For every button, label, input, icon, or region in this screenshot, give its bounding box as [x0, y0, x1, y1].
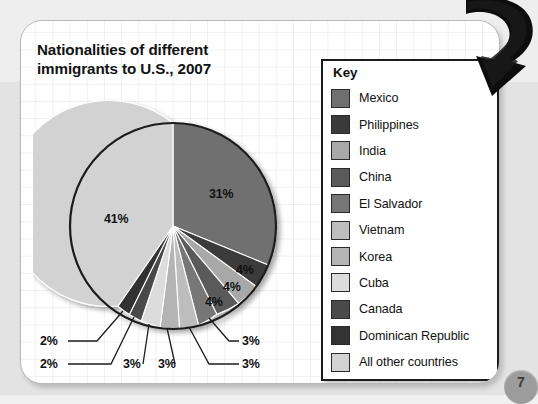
chart-title-line-2: immigrants to U.S., 2007: [37, 59, 295, 78]
legend-item-label: El Salvador: [359, 197, 422, 211]
legend-swatch-icon: [331, 247, 350, 266]
legend-item-label: Philippines: [359, 118, 419, 132]
legend-item: Cuba: [331, 270, 493, 296]
pointer-arrow-icon: [452, 0, 538, 104]
legend-item-label: All other countries: [359, 355, 458, 369]
leader-cuba: [143, 324, 149, 364]
leader-vietnam: [189, 327, 239, 364]
legend-item: China: [331, 164, 493, 190]
legend-swatch-icon: [331, 221, 350, 240]
legend-item: India: [331, 138, 493, 164]
pie-label-cuba: 3%: [123, 357, 141, 371]
pie-label-mexico: 31%: [209, 187, 233, 201]
legend-item-label: Cuba: [359, 276, 389, 290]
legend-heading: Key: [333, 65, 358, 80]
legend-item-label: China: [359, 170, 391, 184]
legend-swatch-icon: [331, 300, 350, 319]
pie-label-dominican-republic: 2%: [40, 357, 58, 371]
pie-label-korea: 3%: [158, 357, 176, 371]
pie-label-china: 4%: [205, 295, 223, 309]
legend-item-label: India: [359, 144, 386, 158]
pie-label-el-salvador: 3%: [242, 334, 260, 348]
legend-item-label: Korea: [359, 250, 392, 264]
legend-swatch-icon: [331, 115, 350, 134]
legend-swatch-icon: [331, 326, 350, 345]
legend-swatch-icon: [331, 273, 350, 292]
legend-item-label: Canada: [359, 302, 403, 316]
chart-legend: Key MexicoPhilippinesIndiaChinaEl Salvad…: [321, 59, 499, 381]
legend-item: Korea: [331, 243, 493, 269]
legend-item: Philippines: [331, 111, 493, 137]
legend-items: MexicoPhilippinesIndiaChinaEl SalvadorVi…: [331, 85, 493, 375]
legend-swatch-icon: [331, 89, 350, 108]
page-number-badge: 7: [504, 370, 538, 404]
legend-swatch-icon: [331, 141, 350, 160]
legend-swatch-icon: [331, 194, 350, 213]
page-number: 7: [504, 374, 538, 390]
chart-title-line-1: Nationalities of different: [37, 40, 295, 59]
pie-label-canada: 2%: [40, 334, 58, 348]
legend-item: Canada: [331, 296, 493, 322]
legend-swatch-icon: [331, 168, 350, 187]
legend-item: All other countries: [331, 349, 493, 375]
legend-item-label: Dominican Republic: [359, 329, 469, 343]
legend-item-label: Vietnam: [359, 223, 404, 237]
pie-label-all-other: 41%: [104, 212, 128, 226]
leader-canada: [68, 311, 123, 341]
pie-label-india: 4%: [223, 280, 241, 294]
pie-label-philippines: 4%: [236, 263, 254, 277]
legend-item: El Salvador: [331, 191, 493, 217]
legend-item: Vietnam: [331, 217, 493, 243]
pie-slices: [33, 100, 277, 329]
legend-swatch-icon: [331, 353, 350, 372]
legend-item: Dominican Republic: [331, 323, 493, 349]
figure-card: Nationalities of different immigrants to…: [20, 20, 500, 384]
pie-chart-svg: [33, 83, 301, 373]
legend-item-label: Mexico: [359, 91, 398, 105]
pie-chart: 31% 41% 4% 4% 4% 2% 2% 3% 3% 3% 3%: [33, 83, 301, 373]
chart-title: Nationalities of different immigrants to…: [37, 40, 295, 79]
pie-label-vietnam: 3%: [242, 357, 260, 371]
